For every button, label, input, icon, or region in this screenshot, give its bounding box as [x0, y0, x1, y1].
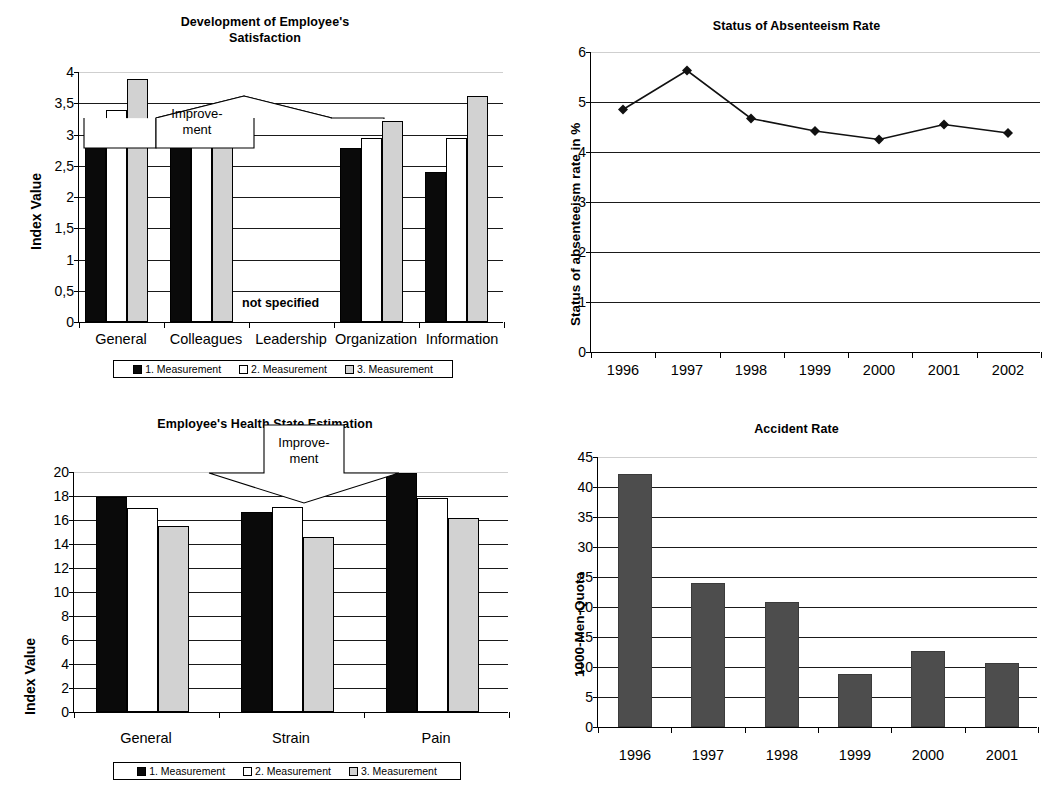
- chart-title-satisfaction: Development of Employee's Satisfaction: [0, 14, 530, 46]
- y-tick-label-14: 14: [53, 536, 69, 552]
- x-label-1997: 1997: [671, 362, 703, 378]
- x-axis-satisfaction: [79, 322, 503, 323]
- bar-organization-m1: [340, 148, 361, 322]
- x-tickmark: [79, 322, 80, 328]
- legend-label-3: 3. Measurement: [361, 765, 437, 777]
- y-axis-label-health: Index Value: [22, 638, 38, 715]
- y-tickmark: [69, 472, 74, 473]
- y-tick-label-25: 25: [577, 569, 593, 585]
- y-tick-label-2: 2: [61, 680, 69, 696]
- legend-label-1: 1. Measurement: [145, 363, 221, 375]
- x-tickmark: [591, 352, 592, 358]
- y-tickmark: [69, 592, 74, 593]
- improvement-callout-line1: Improve-: [122, 106, 272, 122]
- y-tickmark: [69, 568, 74, 569]
- gridline-4: [79, 72, 503, 73]
- x-tickmark: [1041, 352, 1042, 358]
- y-tickmark: [69, 616, 74, 617]
- y-tick-label-45: 45: [577, 449, 593, 465]
- x-tickmark: [598, 727, 599, 733]
- gridline-35: [598, 517, 1037, 518]
- y-tick-label-20: 20: [577, 599, 593, 615]
- bar-general-m2: [127, 508, 158, 712]
- x-label-general: General: [95, 331, 147, 347]
- legend-item-1: 1. Measurement: [137, 765, 225, 777]
- legend-swatch-icon-3: [345, 365, 354, 374]
- y-axis-label-satisfaction: Index Value: [28, 173, 44, 250]
- y-tick-label-20: 20: [53, 464, 69, 480]
- x-tickmark: [219, 712, 220, 718]
- y-tick-label-1: 1: [66, 252, 74, 268]
- chart-title-line1: Development of Employee's: [0, 14, 530, 30]
- x-label-pain: Pain: [421, 730, 450, 746]
- x-label-1998: 1998: [766, 747, 798, 763]
- y-tickmark: [74, 260, 79, 261]
- y-tickmark: [69, 520, 74, 521]
- y-tick-label-12: 12: [53, 560, 69, 576]
- y-tickmark: [69, 688, 74, 689]
- x-tickmark: [671, 727, 672, 733]
- x-label-strain: Strain: [272, 730, 310, 746]
- x-tickmark: [965, 727, 966, 733]
- improvement-callout-satisfaction: Improve- ment: [84, 96, 384, 150]
- y-tick-label-18: 18: [53, 488, 69, 504]
- x-label-1998: 1998: [735, 362, 767, 378]
- legend-swatch-icon-1: [137, 767, 146, 776]
- bar-colleagues-m2: [191, 126, 212, 322]
- x-tickmark: [419, 322, 420, 328]
- x-tickmark: [745, 727, 746, 733]
- y-tickmark: [593, 607, 598, 608]
- y-tick-label-10: 10: [53, 584, 69, 600]
- bar-organization-m2: [361, 138, 382, 322]
- chart-title-line2: Satisfaction: [0, 30, 530, 46]
- bar-information-m1: [425, 172, 446, 322]
- y-tick-label-1: 1: [578, 294, 586, 310]
- y-tickmark: [69, 544, 74, 545]
- legend-label-3: 3. Measurement: [357, 363, 433, 375]
- y-tick-label-6: 6: [61, 632, 69, 648]
- not-specified-note: not specified: [242, 296, 319, 310]
- y-tickmark: [593, 697, 598, 698]
- x-tickmark: [334, 322, 335, 328]
- bar-general-m1: [85, 141, 106, 322]
- bar-strain-m2: [272, 507, 303, 712]
- y-tick-label-0_5: 0,5: [55, 283, 74, 299]
- x-tickmark: [784, 352, 785, 358]
- y-tickmark: [74, 72, 79, 73]
- plot-area-accident: 45 40 35 30 25 20 15 10 5 0 1996: [597, 457, 1037, 727]
- bar-2000: [911, 651, 945, 727]
- x-tickmark: [74, 712, 75, 718]
- legend-swatch-icon-3: [349, 767, 358, 776]
- legend-swatch-icon-1: [133, 365, 142, 374]
- y-tick-label-3_5: 3,5: [55, 95, 74, 111]
- x-label-2001: 2001: [986, 747, 1018, 763]
- bar-pain-m2: [417, 498, 448, 712]
- bar-strain-m1: [241, 512, 272, 712]
- legend-label-2: 2. Measurement: [255, 765, 331, 777]
- chart-title-absenteeism: Status of Absenteeism Rate: [530, 18, 1063, 34]
- bar-1997: [691, 583, 725, 727]
- x-tickmark: [818, 727, 819, 733]
- y-tickmark: [593, 637, 598, 638]
- y-tick-label-4: 4: [578, 144, 586, 160]
- y-tickmark: [69, 496, 74, 497]
- y-tick-label-15: 15: [577, 629, 593, 645]
- bar-information-m3: [467, 96, 488, 322]
- y-tickmark: [74, 103, 79, 104]
- x-label-2002: 2002: [992, 362, 1024, 378]
- legend-label-2: 2. Measurement: [251, 363, 327, 375]
- gridline-5: [598, 697, 1037, 698]
- legend-item-2: 2. Measurement: [239, 363, 327, 375]
- x-tickmark: [509, 712, 510, 718]
- y-tickmark: [593, 487, 598, 488]
- chart-panel-absenteeism: Status of Absenteeism Rate Status of abs…: [530, 0, 1063, 400]
- x-tickmark: [891, 727, 892, 733]
- x-label-2000: 2000: [863, 362, 895, 378]
- x-axis-absenteeism: [591, 352, 1040, 353]
- x-tickmark: [249, 322, 250, 328]
- chart-panel-accident: Accident Rate 1000-Men-Quota 45 40 35 30…: [530, 405, 1063, 810]
- y-tick-label-2: 2: [578, 244, 586, 260]
- y-tick-label-4: 4: [61, 656, 69, 672]
- x-label-leadership: Leadership: [255, 331, 327, 347]
- gridline-15: [598, 637, 1037, 638]
